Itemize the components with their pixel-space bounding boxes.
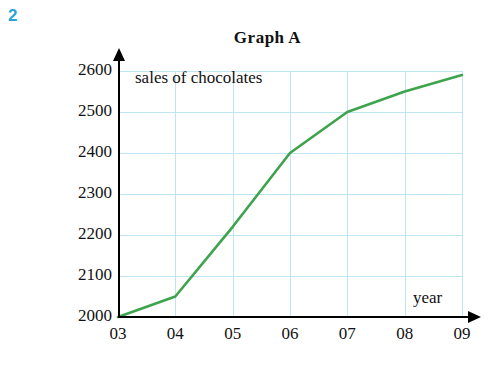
data-line: [118, 71, 462, 317]
grid-line-vertical: [462, 71, 463, 317]
x-axis-line: [118, 316, 474, 318]
plot-wrap: 2000210022002300240025002600 03040506070…: [0, 0, 495, 369]
y-tick-label: 2500: [58, 101, 112, 121]
x-tick-label: 04: [155, 324, 195, 344]
x-axis-label: year: [413, 288, 442, 308]
y-axis-arrow-icon: [113, 48, 125, 61]
y-tick-label: 2600: [58, 60, 112, 80]
x-tick-label: 07: [327, 324, 367, 344]
x-tick-label: 08: [385, 324, 425, 344]
x-axis-arrow-icon: [468, 311, 481, 323]
y-tick-label: 2400: [58, 142, 112, 162]
series-label: sales of chocolates: [135, 68, 262, 88]
chart-figure: 2 Graph A 2000210022002300240025002600 0…: [0, 0, 495, 369]
x-tick-label: 05: [213, 324, 253, 344]
x-tick-label: 06: [270, 324, 310, 344]
y-tick-label: 2200: [58, 224, 112, 244]
y-tick-label: 2100: [58, 265, 112, 285]
y-tick-label: 2000: [58, 306, 112, 326]
y-tick-label: 2300: [58, 183, 112, 203]
x-tick-label: 03: [98, 324, 138, 344]
y-axis-line: [118, 58, 120, 317]
x-tick-label: 09: [442, 324, 482, 344]
